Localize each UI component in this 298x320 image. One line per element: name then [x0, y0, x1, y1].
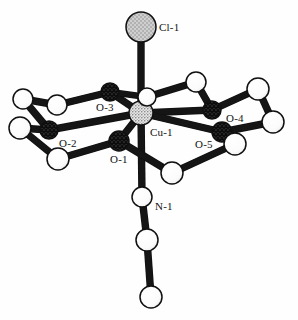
- molecule-canvas: Cl-1O-3O-2O-1Cu-1O-4O-5N-1: [0, 0, 298, 320]
- atom-c3[interactable]: [138, 88, 156, 106]
- atom-c6[interactable]: [262, 111, 284, 133]
- atom-cl1[interactable]: [126, 12, 156, 42]
- atom-c2[interactable]: [140, 286, 162, 308]
- atom-c11[interactable]: [9, 117, 31, 139]
- label-o3: O-3: [96, 101, 114, 113]
- atom-c7[interactable]: [224, 133, 246, 155]
- atom-c9[interactable]: [47, 95, 67, 115]
- atom-c8[interactable]: [161, 162, 183, 184]
- atom-o2[interactable]: [40, 121, 58, 139]
- atom-c12[interactable]: [47, 148, 69, 170]
- atom-c10[interactable]: [13, 89, 33, 109]
- label-o4: O-4: [226, 112, 244, 124]
- atom-o3[interactable]: [101, 83, 119, 101]
- label-cl1: Cl-1: [159, 21, 179, 33]
- label-n1: N-1: [155, 200, 173, 212]
- atom-c5[interactable]: [247, 78, 269, 100]
- atom-o4[interactable]: [203, 101, 221, 119]
- molecular-structure-figure: Cl-1O-3O-2O-1Cu-1O-4O-5N-1: [0, 0, 298, 320]
- atom-n1[interactable]: [132, 187, 152, 207]
- atom-o1[interactable]: [109, 131, 129, 151]
- label-o1: O-1: [110, 153, 128, 165]
- atom-c4[interactable]: [186, 72, 206, 92]
- label-o2: O-2: [59, 137, 77, 149]
- atom-c1[interactable]: [136, 229, 158, 251]
- label-o5: O-5: [195, 138, 213, 150]
- label-cu1: Cu-1: [150, 126, 173, 138]
